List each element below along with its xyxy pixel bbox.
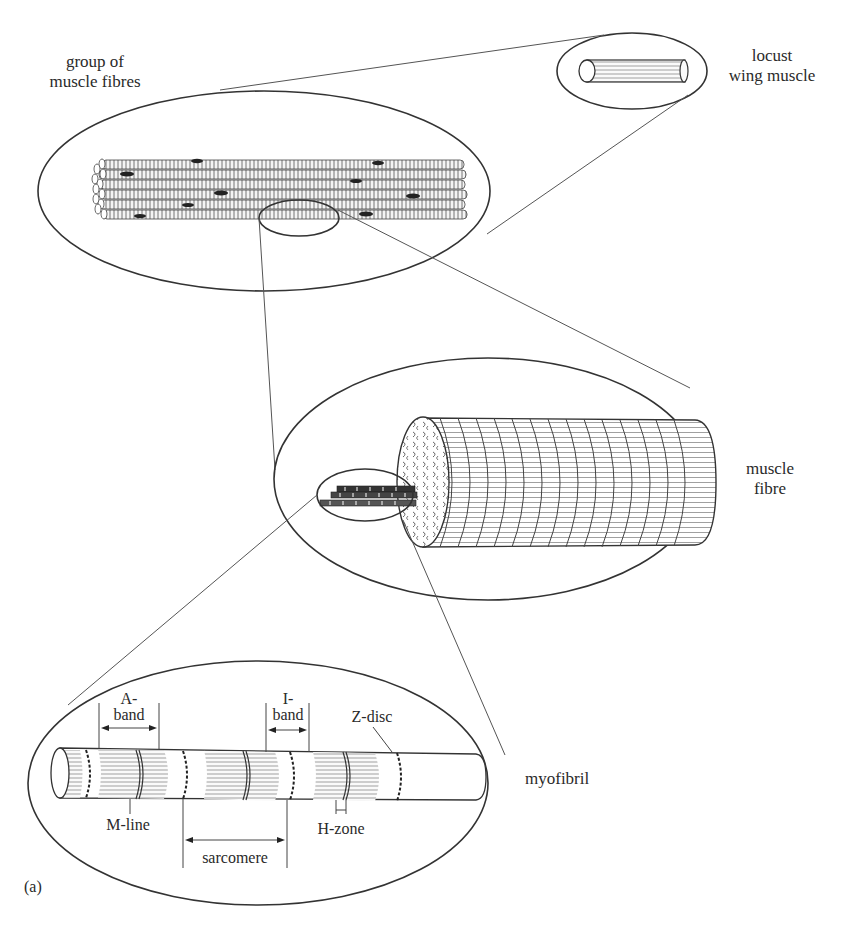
zoom-leader-fibre-left	[259, 218, 275, 470]
group-label-line1: group of	[66, 52, 124, 71]
sarcomere-label: sarcomere	[202, 849, 268, 866]
muscle-fibre-cylinder-icon	[397, 417, 716, 547]
zoom-leader-bottom	[487, 95, 688, 234]
locust-label-line1: locust	[752, 46, 793, 65]
a-band-label-2: band	[113, 706, 144, 723]
muscle-fibre-group: group of muscle fibres	[38, 52, 490, 291]
zoom-leader-fibre-right	[338, 210, 690, 388]
i-band-label-2: band	[272, 706, 303, 723]
m-line-label: M-line	[106, 816, 150, 833]
locust-label-line2: wing muscle	[729, 66, 815, 85]
zoom-leader-myofibril-left	[68, 495, 317, 705]
z-disc-label: Z-disc	[352, 708, 393, 725]
h-zone-label: H-zone	[317, 820, 364, 837]
zoom-leader-top	[220, 35, 604, 90]
panel-label: (a)	[24, 878, 42, 896]
fibre-label-line2: fibre	[754, 479, 786, 498]
a-band-annotation: A- band	[99, 690, 159, 749]
h-zone-annotation: H-zone	[317, 800, 364, 837]
i-band-annotation: I- band	[266, 690, 309, 752]
myofibril-label: myofibril	[525, 769, 589, 788]
myofibril-cylinder-icon	[51, 748, 486, 801]
a-band-label-1: A-	[121, 690, 138, 707]
myofibril-section: A- band I- band Z-disc M-line	[28, 661, 589, 905]
z-disc-annotation: Z-disc	[352, 708, 393, 752]
muscle-fibre-section: muscle fibre	[274, 358, 794, 600]
sarcomere-annotation: sarcomere	[183, 799, 287, 868]
fibre-label-line1: muscle	[746, 459, 794, 478]
fibre-bundle-icon	[92, 159, 467, 219]
i-band-label-1: I-	[283, 690, 294, 707]
myofibril-strands-icon	[320, 486, 417, 506]
locust-wing-muscle-group: locust wing muscle	[557, 33, 815, 109]
muscle-structure-diagram: locust wing muscle	[0, 0, 862, 934]
locust-muscle-icon	[579, 60, 688, 82]
m-line-annotation: M-line	[106, 799, 150, 833]
group-label-line2: muscle fibres	[49, 72, 140, 91]
